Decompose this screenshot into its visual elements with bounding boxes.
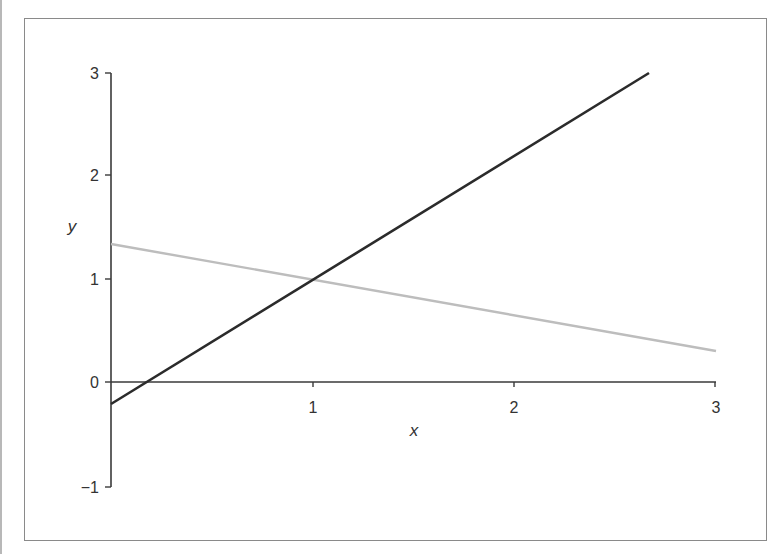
y-tick-label: 3 — [90, 65, 99, 82]
y-axis: 3 2 1 0 −1 y — [67, 65, 111, 496]
x-tick-label: 3 — [712, 399, 721, 416]
series-steep-line — [111, 73, 649, 404]
y-axis-label: y — [67, 217, 78, 236]
x-tick-label: 2 — [510, 399, 519, 416]
series-shallow-line — [111, 244, 716, 351]
y-tick-label: 0 — [90, 374, 99, 391]
y-tick-label: 1 — [90, 271, 99, 288]
x-axis-label: x — [409, 421, 419, 440]
y-tick-label: 2 — [90, 167, 99, 184]
x-axis: 1 2 3 x — [111, 382, 721, 440]
chart-canvas: 3 2 1 0 −1 y 1 2 3 x — [0, 0, 776, 554]
y-tick-label: −1 — [81, 479, 99, 496]
x-tick-label: 1 — [309, 399, 318, 416]
